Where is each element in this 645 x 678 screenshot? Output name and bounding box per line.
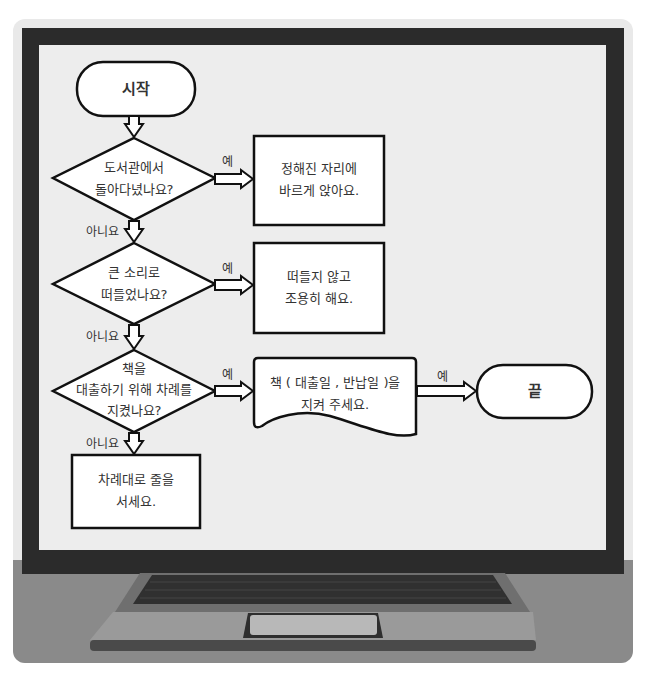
decision-1-text: 도서관에서 돌아다녔나요? [53,157,215,201]
process-3-line-2: 서세요. [72,491,200,513]
decision-1-line-2: 돌아다녔나요? [53,179,215,201]
process-1-line-1: 정해진 자리에 [254,158,384,180]
document-text: 책 ( 대출일 , 반납일 )을 지켜 주세요. [254,372,416,416]
process-1-text: 정해진 자리에 바르게 앉아요. [254,158,384,202]
decision-3-line-2: 대출하기 위해 차례를 [53,379,215,400]
no-label-1: 아니요 [86,222,119,239]
arrow-right-icon [417,382,476,400]
arrow-down-icon [125,116,143,137]
no-label-2: 아니요 [86,327,119,344]
end-label: 끝 [477,380,592,402]
process-2-line-2: 조용히 해요. [254,288,384,310]
yes-label-2: 예 [222,259,233,276]
yes-label-3: 예 [222,365,233,382]
arrow-right-icon [215,276,253,294]
process-3-text: 차례대로 줄을 서세요. [72,469,200,513]
no-label-3: 아니요 [86,434,119,451]
arrow-down-icon [125,221,143,242]
yes-label-1: 예 [222,152,233,169]
decision-1-line-1: 도서관에서 [53,157,215,179]
yes-label-4: 예 [437,367,448,384]
arrow-down-icon [125,433,143,454]
decision-3-line-3: 지켰나요? [53,400,215,421]
arrow-down-icon [125,325,143,349]
document-line-1: 책 ( 대출일 , 반납일 )을 [254,372,416,394]
process-3-line-1: 차례대로 줄을 [72,469,200,491]
decision-2-text: 큰 소리로 떠들었나요? [53,262,215,306]
document-line-2: 지켜 주세요. [254,394,416,416]
arrow-right-icon [215,170,253,188]
start-label: 시작 [77,78,195,100]
decision-2-line-1: 큰 소리로 [53,262,215,284]
process-2-text: 떠들지 않고 조용히 해요. [254,266,384,310]
process-1-line-2: 바르게 앉아요. [254,180,384,202]
decision-2-line-2: 떠들었나요? [53,284,215,306]
decision-3-text: 책을 대출하기 위해 차례를 지켰나요? [53,358,215,421]
arrow-right-icon [215,382,253,400]
decision-3-line-1: 책을 [53,358,215,379]
process-2-line-1: 떠들지 않고 [254,266,384,288]
